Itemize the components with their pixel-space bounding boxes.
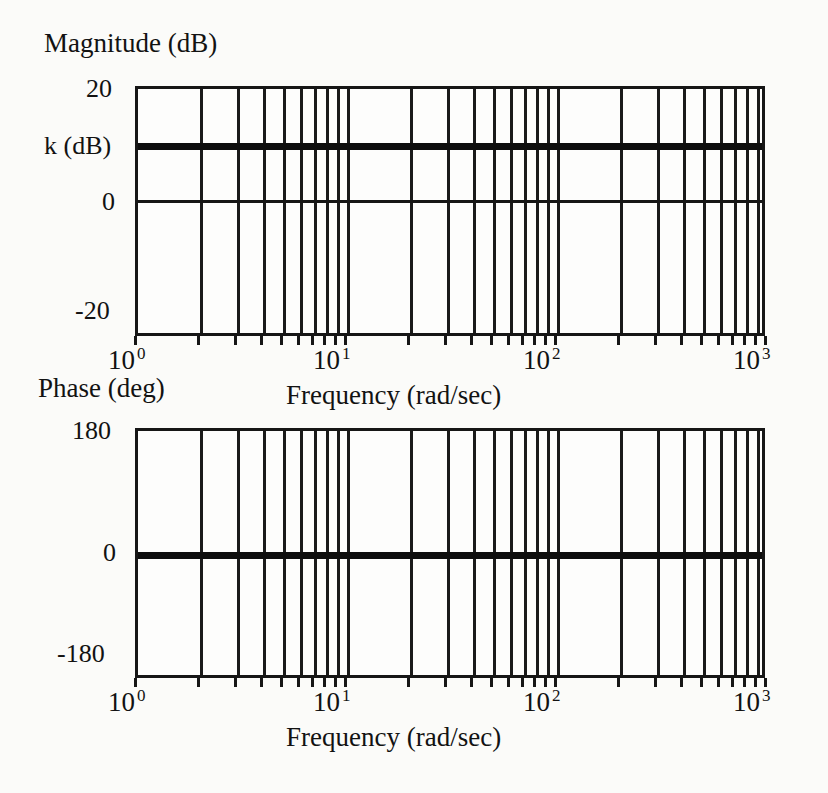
phase-xtick-2-mantissa: 10 [313,687,340,717]
magnitude-trace-k [138,143,762,150]
axis-tick [407,336,410,345]
magnitude-axis-title: Magnitude (dB) [44,30,217,57]
magnitude-xtick-1-mantissa: 10 [108,345,135,375]
axis-tick [470,336,473,345]
axis-tick [311,678,314,687]
axis-tick [297,336,300,345]
phase-xtick-4-exponent: 3 [762,686,771,705]
phase-ytick-0: 0 [103,540,116,566]
axis-tick [280,678,283,687]
gridline-vertical [703,89,706,333]
axis-tick [700,678,703,687]
axis-tick [260,678,263,687]
magnitude-xtick-2: 101 [313,345,351,374]
magnitude-ytick-minus20: -20 [75,298,110,324]
axis-tick [334,678,337,687]
axis-tick [507,678,510,687]
gridline-vertical [620,89,623,333]
gridline-vertical [536,89,539,333]
phase-xaxis-title: Frequency (rad/sec) [286,724,501,751]
axis-tick [680,336,683,345]
magnitude-xtick-4-mantissa: 10 [733,345,760,375]
gridline-vertical [410,89,413,333]
axis-tick [743,336,746,345]
phase-trace-zero [138,552,762,559]
axis-tick [717,678,720,687]
magnitude-xtick-3-mantissa: 10 [523,345,550,375]
axis-tick [654,678,657,687]
gridline-vertical [447,89,450,333]
axis-tick [544,336,547,345]
gridline-vertical [683,89,686,333]
axis-tick [654,336,657,345]
axis-tick [311,336,314,345]
magnitude-ytick-20: 20 [86,76,112,102]
magnitude-xtick-4: 103 [733,345,771,374]
magnitude-xtick-4-exponent: 3 [762,344,771,363]
axis-tick [544,678,547,687]
axis-tick [234,678,237,687]
axis-tick [731,336,734,345]
axis-tick [280,336,283,345]
phase-ytick-minus180: -180 [57,641,105,667]
magnitude-xtick-3-exponent: 2 [552,344,561,363]
phase-xtick-3-exponent: 2 [552,686,561,705]
phase-xtick-2: 101 [313,687,351,716]
axis-tick [260,336,263,345]
magnitude-xtick-2-exponent: 1 [342,344,351,363]
axis-tick [234,336,237,345]
gridline-vertical [200,89,203,333]
axis-tick [754,336,757,345]
phase-xtick-4: 103 [733,687,771,716]
gridline-vertical [734,89,737,333]
axis-tick [407,678,410,687]
phase-xtick-3-mantissa: 10 [523,687,550,717]
axis-tick [490,336,493,345]
magnitude-gridline-0db [138,200,762,203]
phase-axis-title: Phase (deg) [38,375,165,402]
phase-xtick-1-exponent: 0 [137,686,146,705]
axis-tick [323,678,326,687]
axis-tick [533,336,536,345]
axis-tick [297,678,300,687]
magnitude-gridlines [138,89,762,333]
magnitude-xtick-1: 100 [108,345,146,374]
axis-tick [617,678,620,687]
gridline-vertical [326,89,329,333]
phase-xtick-3: 102 [523,687,561,716]
magnitude-plot-area [135,86,765,336]
gridline-vertical [557,89,560,333]
phase-xtick-4-mantissa: 10 [733,687,760,717]
axis-tick [334,336,337,345]
magnitude-xtick-1-exponent: 0 [137,344,146,363]
axis-tick [731,678,734,687]
gridline-vertical [746,89,749,333]
phase-plot-area [135,428,765,678]
phase-ytick-180: 180 [72,418,111,444]
axis-tick [507,336,510,345]
gridline-vertical [524,89,527,333]
axis-tick [470,678,473,687]
axis-tick [700,336,703,345]
magnitude-xtick-2-mantissa: 10 [313,345,340,375]
gridline-vertical [300,89,303,333]
phase-xtick-2-exponent: 1 [342,686,351,705]
phase-xtick-1-mantissa: 10 [108,687,135,717]
axis-tick [197,678,200,687]
axis-tick [743,678,746,687]
axis-tick [197,336,200,345]
gridline-vertical [720,89,723,333]
gridline-vertical [547,89,550,333]
magnitude-xtick-3: 102 [523,345,561,374]
axis-tick [521,336,524,345]
gridline-vertical [314,89,317,333]
axis-tick [617,336,620,345]
gridline-vertical [283,89,286,333]
gridline-vertical [337,89,340,333]
axis-tick [717,336,720,345]
gridline-vertical [510,89,513,333]
axis-tick [490,678,493,687]
gridline-vertical [657,89,660,333]
gridline-vertical [347,89,350,333]
axis-tick [680,678,683,687]
